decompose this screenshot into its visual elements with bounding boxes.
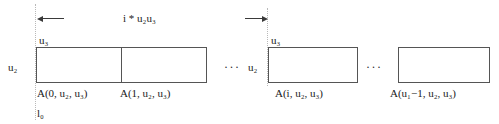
array-cell-caption: A(1, u₂, u₃) <box>120 87 170 99</box>
right-arrow <box>245 13 268 24</box>
base-pointer-label: l₀ <box>37 107 44 119</box>
stride-offset-label: i * u₂u₃ <box>123 12 156 24</box>
left-arrow-shaft <box>43 18 64 19</box>
array-cell-caption: A(i, u₂, u₃) <box>275 87 323 99</box>
array-cell-caption: A(u₁−1, u₂, u₃) <box>390 87 456 99</box>
right-arrow-shaft <box>245 18 262 19</box>
array-cell[interactable] <box>37 48 121 82</box>
left-group-row-extent-label: u₂ <box>8 61 17 73</box>
array-cell-caption: A(0, u₂, u₃) <box>37 87 87 99</box>
left-arrow <box>37 13 64 24</box>
right-group-row-extent-label: u₂ <box>248 61 257 73</box>
right-arrow-head <box>262 16 268 22</box>
group-gap-ellipsis: ··· <box>224 60 241 75</box>
right-group-col-extent-label: u₃ <box>271 34 280 46</box>
array-layout-diagram: i * u₂u₃ u₃ u₂ A(0, u₂, u₃) A(1, u₂, u₃)… <box>0 0 499 124</box>
right-group-ellipsis: ··· <box>366 60 383 75</box>
array-cell[interactable] <box>398 47 490 83</box>
array-cell[interactable] <box>121 48 206 82</box>
array-cell[interactable] <box>268 47 358 83</box>
left-group-cells <box>36 47 207 83</box>
left-group-col-extent-label: u₃ <box>39 34 48 46</box>
